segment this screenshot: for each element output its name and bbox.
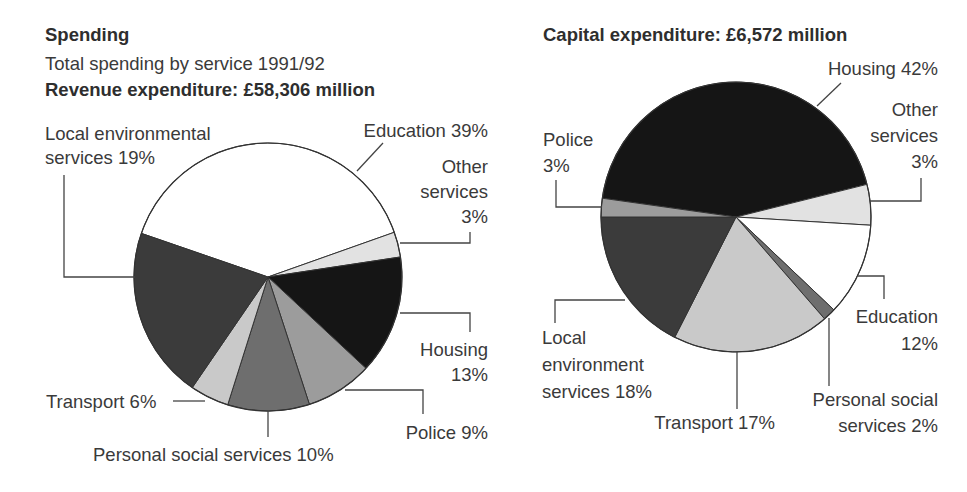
slice-label-text: Personal social services 10% [93,444,334,465]
leader-line [345,390,423,414]
capital-expenditure-pie [601,82,871,352]
leader-line [357,143,383,171]
slice-label-text: Police [543,129,593,150]
slice-label-text: Transport 17% [654,412,775,433]
slice-label-text: 3% [461,206,488,227]
slice-label-text: Other [892,99,938,120]
slice-label-text: 3% [543,155,570,176]
slice-label-text: Personal social [813,389,938,410]
slice-label-personal-social-services: Personal social services 10% [93,411,334,465]
slice-label-text: Other [442,156,488,177]
slice-label-text: Local [542,327,586,348]
slice-label-text: Police 9% [406,422,488,443]
slice-label-text: 13% [451,364,488,385]
slice-label-text: services [420,181,488,202]
slice-label-text: services [870,125,938,146]
slice-label-text: Housing [420,339,488,360]
leader-line [64,175,135,277]
slice-label-text: Transport 6% [46,391,156,412]
slice-label-text: services 2% [838,415,938,436]
slice-label-police: Police3% [543,129,602,207]
leader-line [555,300,625,323]
slice-label-text: services 18% [542,381,652,402]
slice-label-other-services: Otherservices3% [870,99,938,201]
slice-label-police: Police 9% [345,390,488,443]
slice-label-other-services: Otherservices3% [400,156,488,243]
slice-label-text: Education 39% [364,120,488,141]
slice-label-text: services 19% [45,147,155,168]
slice-label-transport: Transport 17% [654,352,775,433]
slice-label-text: environment [542,354,644,375]
leader-line [858,276,884,299]
header-title: Spending [45,24,129,45]
capital-chart-title: Capital expenditure: £6,572 million [543,24,847,45]
revenue-expenditure-pie [134,143,402,411]
slice-label-local-environment-services: Localenvironmentservices 18% [542,300,652,402]
leader-line [400,313,470,332]
spending-pie-charts: Spending Total spending by service 1991/… [0,0,967,492]
slice-label-text: Local environmental [45,123,211,144]
leader-line [870,178,921,201]
leader-line [817,83,841,106]
slice-label-education: Education12% [856,276,938,354]
leader-line [556,180,602,207]
slice-label-text: 3% [911,151,938,172]
revenue-chart-title: Revenue expenditure: £58,306 million [45,79,375,100]
slice-label-text: Housing 42% [828,58,938,79]
slice-label-transport: Transport 6% [46,391,205,412]
slice-label-text: Education [856,306,938,327]
leader-line [400,232,470,243]
slice-label-housing: Housing13% [400,313,488,385]
header-subtitle: Total spending by service 1991/92 [45,53,325,74]
slice-label-text: 12% [901,333,938,354]
